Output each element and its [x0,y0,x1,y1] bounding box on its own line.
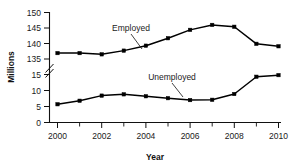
data-point-employed-2005 [166,37,169,40]
data-point-unemployed-2006 [188,98,191,101]
data-point-employed-2010 [277,45,280,48]
data-point-employed-2009 [255,42,258,45]
data-point-employed-2001 [78,51,81,54]
x-tick-label-2008: 2008 [225,131,244,141]
x-axis-title: Year [146,152,165,162]
x-tick-label-2004: 2004 [136,131,155,141]
chart-svg: 150 145 140 135 15 10 5 0 Millions 2000 … [0,0,292,168]
y-tick-label-10: 10 [32,86,42,96]
y-axis-title: Millions [6,51,16,83]
data-point-unemployed-2002 [100,94,103,97]
data-point-unemployed-2004 [144,95,147,98]
data-point-employed-2006 [188,28,191,31]
data-point-employed-2000 [56,51,59,54]
data-point-employed-2007 [211,23,214,26]
y-tick-label-5: 5 [36,102,41,112]
x-tick-label-2000: 2000 [48,131,67,141]
y-tick-label-0: 0 [36,118,41,128]
y-tick-label-15: 15 [32,70,42,80]
data-point-unemployed-2001 [78,99,81,102]
data-point-unemployed-2003 [122,93,125,96]
series-label-employed: Employed [112,23,150,33]
data-point-unemployed-2005 [166,96,169,99]
y-tick-label-140: 140 [27,39,41,49]
data-point-unemployed-2010 [277,73,280,76]
data-point-unemployed-2009 [255,75,258,78]
data-point-employed-2002 [100,53,103,56]
data-point-unemployed-2008 [233,92,236,95]
data-point-unemployed-2000 [56,103,59,106]
data-point-employed-2008 [233,25,236,28]
data-point-unemployed-2007 [211,98,214,101]
data-point-employed-2003 [122,49,125,52]
x-tick-label-2002: 2002 [92,131,111,141]
line-chart: 150 145 140 135 15 10 5 0 Millions 2000 … [0,0,292,168]
y-tick-label-150: 150 [27,8,41,18]
data-point-employed-2004 [144,44,147,47]
y-tick-label-145: 145 [27,23,41,33]
series-label-unemployed: Unemployed [148,72,196,82]
x-tick-label-2010: 2010 [269,131,288,141]
y-tick-label-135: 135 [27,54,41,64]
x-tick-label-2006: 2006 [181,131,200,141]
